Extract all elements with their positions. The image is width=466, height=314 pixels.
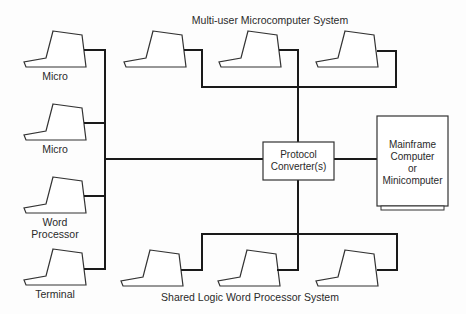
- mainframe-label: Mainframe Computer or Minicomputer: [377, 139, 448, 187]
- protocol-converter-label: Protocol Converter(s): [263, 149, 334, 173]
- network-diagram: Multi-user Microcomputer System Shared L…: [0, 0, 466, 314]
- terminal-icon: [24, 249, 86, 285]
- terminal-icon: [218, 250, 280, 286]
- mainframe-base: [381, 206, 444, 210]
- top-group-label: Multi-user Microcomputer System: [150, 14, 390, 26]
- terminal-icon: [121, 250, 183, 286]
- terminal-icon: [124, 31, 186, 67]
- terminal-icon: [316, 250, 378, 286]
- terminal-icon: [24, 31, 86, 67]
- device-label-word-processor: Word Processor: [20, 216, 90, 240]
- terminal-icon: [24, 177, 86, 213]
- terminal-icon: [316, 31, 378, 67]
- terminal-icon: [24, 104, 86, 140]
- device-label-micro-1: Micro: [20, 70, 90, 82]
- bottom-group-label: Shared Logic Word Processor System: [130, 291, 370, 303]
- connection-lines: [84, 50, 397, 270]
- terminal-icon: [219, 31, 281, 67]
- device-label-terminal: Terminal: [20, 288, 90, 300]
- device-label-micro-2: Micro: [20, 143, 90, 155]
